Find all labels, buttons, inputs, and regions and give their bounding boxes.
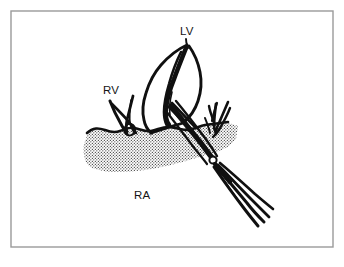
- label-rv: RV: [103, 84, 119, 96]
- figure-root: LV RV RA: [0, 0, 344, 267]
- label-lv: LV: [180, 25, 194, 37]
- label-ra: RA: [134, 189, 151, 201]
- medical-illustration-canvas: LV RV RA: [0, 0, 344, 267]
